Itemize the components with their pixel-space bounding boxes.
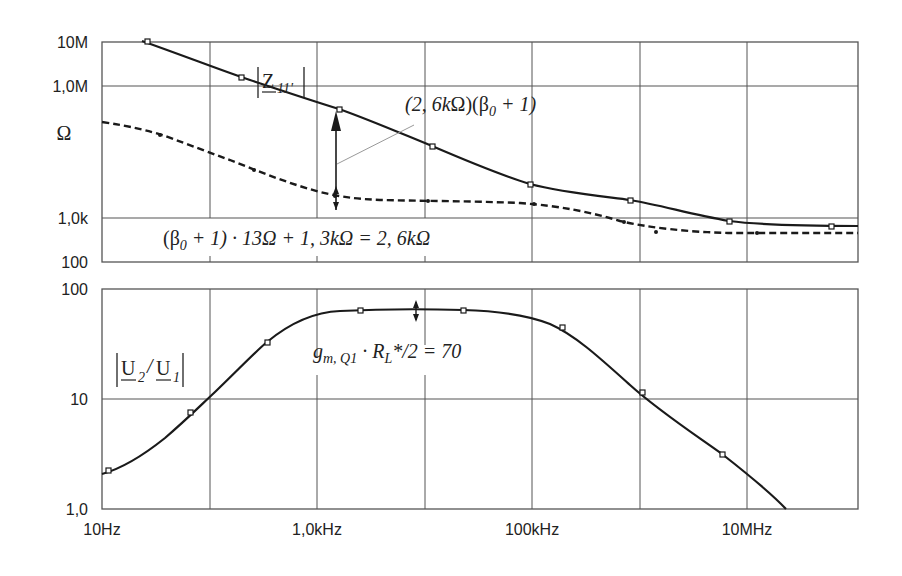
annotation-midband-gain: gm, Q1 · RL*/2 = 70 [313,340,461,366]
top-dashed-markers [158,133,759,235]
annotation-leader-line [337,125,414,164]
svg-text:Z: Z [262,70,274,92]
bottom-gain-markers [106,308,725,473]
bode-chart: 10M 1,0M Ω 1,0k 100 Z 11' [0,0,902,576]
z11-label: Z 11' [258,67,304,98]
top-z11-markers [145,39,834,229]
xtick-10MHz: 10MHz [722,521,773,538]
xtick-1kHz: 1,0kHz [292,521,342,538]
bottom-ytick-10: 10 [70,391,88,408]
bottom-ytick-100: 100 [61,281,88,298]
svg-text:11': 11' [277,81,294,96]
annotation-rin-equation: (β0 + 1) · 13Ω + 1, 3kΩ = 2, 6kΩ [163,227,430,253]
bottom-ytick-1: 1,0 [66,501,88,518]
top-z11-curve [142,41,858,226]
top-ytick-100: 100 [61,254,88,271]
svg-text:2: 2 [138,370,145,385]
top-dashed-curve [102,122,858,233]
top-y-unit: Ω [57,122,72,144]
svg-text:/: / [146,355,155,377]
u2-u1-label: U 2 / U 1 [117,353,183,387]
xtick-10Hz: 10Hz [83,521,120,538]
top-ytick-1M: 1,0M [52,78,88,95]
plateau-arrow [413,300,419,322]
svg-text:U: U [121,357,136,379]
top-ytick-10M: 10M [57,34,88,51]
svg-text:U: U [156,357,171,379]
xtick-100kHz: 100kHz [505,521,559,538]
bottom-plot: 100 10 1,0 U 2 / U 1 [61,281,858,518]
top-plot: 10M 1,0M Ω 1,0k 100 Z 11' [52,34,858,271]
svg-text:1: 1 [173,370,180,385]
x-axis-labels: 10Hz 1,0kHz 100kHz 10MHz [83,521,772,538]
top-ytick-1k: 1,0k [58,210,89,227]
